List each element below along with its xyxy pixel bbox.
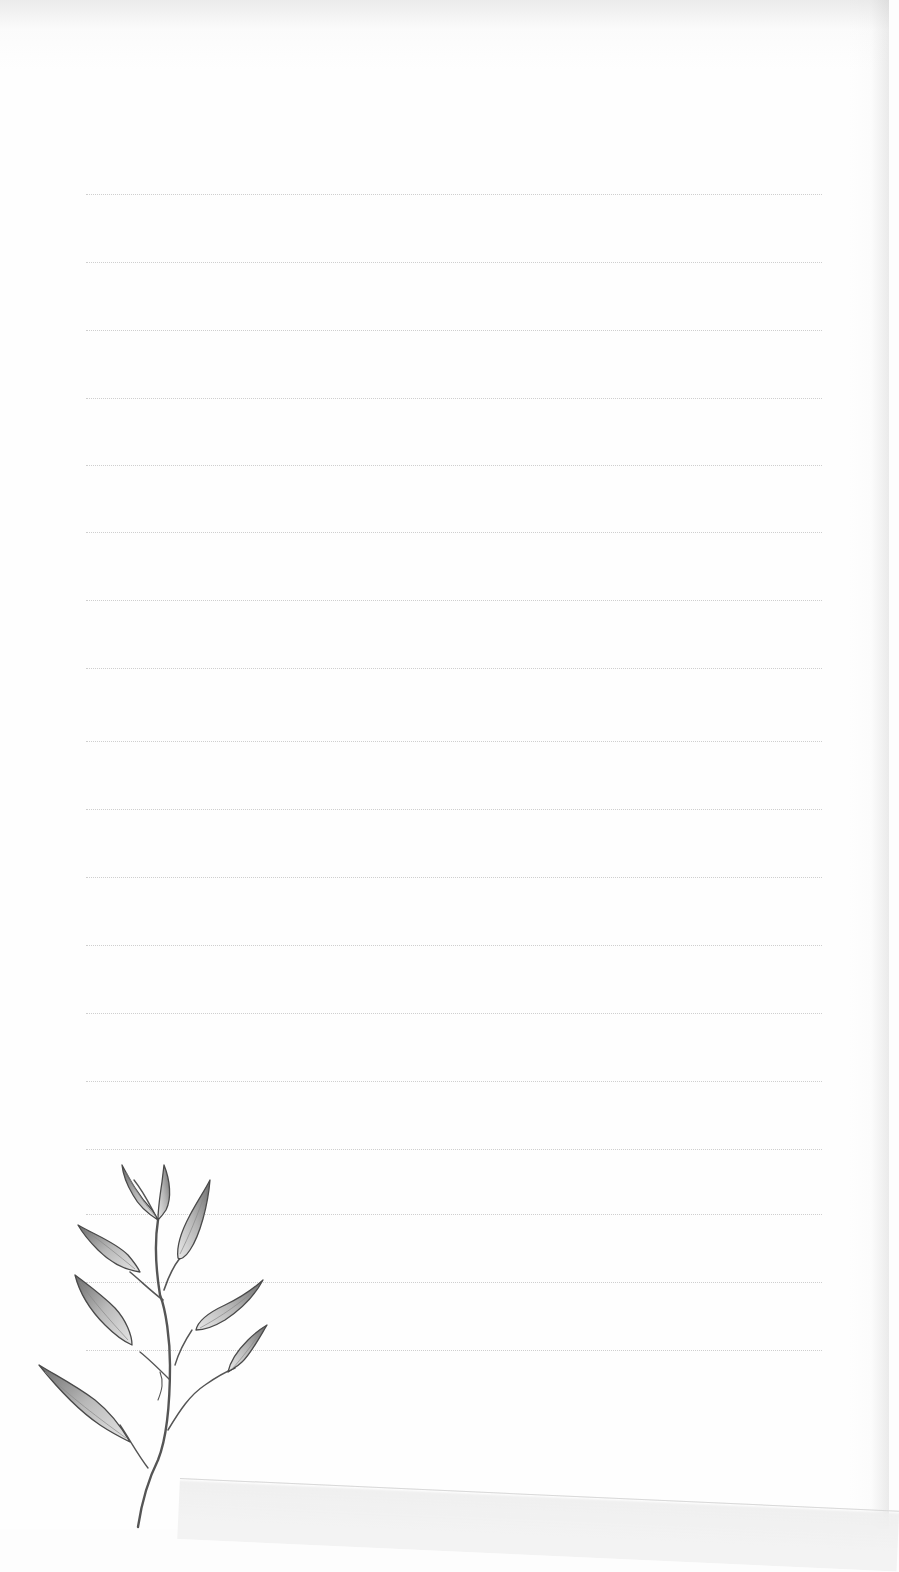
ruled-line [86,1013,822,1014]
stem [120,1180,235,1527]
leaves [39,1165,267,1442]
ruled-line [86,330,822,331]
ruled-line [86,1081,822,1082]
ruled-line [86,945,822,946]
ruled-line [86,809,822,810]
leaf-branch-illustration [30,1150,280,1529]
ruled-line [86,600,822,601]
leaf-top-left [122,1165,158,1220]
ruled-line [86,741,822,742]
leaf-mid-right [196,1280,263,1330]
leaf-lower-right [228,1325,267,1372]
ruled-line [86,877,822,878]
ruled-line [86,668,822,669]
ruled-line [86,194,822,195]
ruled-line [86,532,822,533]
ruled-line [86,262,822,263]
ruled-line [86,398,822,399]
leaf-top-center [158,1165,170,1220]
ruled-line [86,465,822,466]
leaf-bottom-left [39,1365,130,1442]
